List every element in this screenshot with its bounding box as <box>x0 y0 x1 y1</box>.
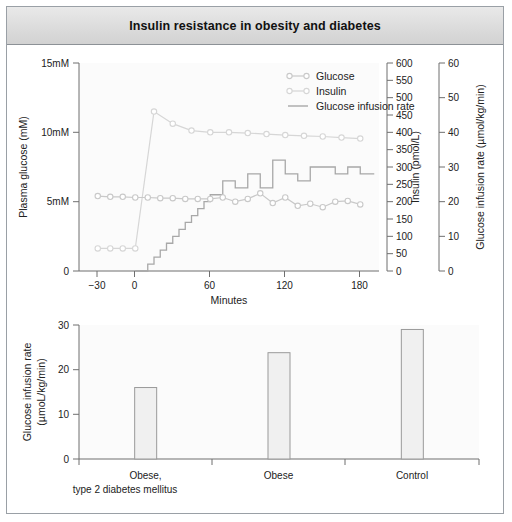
data-point <box>220 195 225 200</box>
timecourse-svg: 0 5mM 10mM 15mM Plasma glucose (mM) −30 … <box>7 45 505 313</box>
bar-y-axis-label-line2: (µmoL/kg/min) <box>35 358 47 425</box>
x-tick-label: 60 <box>204 280 216 291</box>
data-point <box>233 199 238 204</box>
timecourse-chart: 0 5mM 10mM 15mM Plasma glucose (mM) −30 … <box>7 45 505 313</box>
legend-circle-icon <box>287 73 292 78</box>
y-axis-right-2-label: Glucose infusion rate (µmol/kg/min) <box>474 84 486 249</box>
bar-y-tick-label: 10 <box>58 409 70 420</box>
bar-category-ticks <box>79 459 479 465</box>
page-title: Insulin resistance in obesity and diabet… <box>129 19 381 33</box>
bar-category-label: Obese, <box>129 470 161 481</box>
data-point <box>158 196 163 201</box>
data-point <box>145 195 150 200</box>
data-point <box>108 194 113 199</box>
bar-y-tick-label: 20 <box>58 364 70 375</box>
tick-label: 50 <box>448 92 460 103</box>
x-tick-label: 120 <box>276 280 293 291</box>
legend-circle-icon <box>304 73 309 78</box>
data-point <box>195 196 200 201</box>
right-axis-2-ticks: 0102030405060 <box>439 58 460 277</box>
data-point <box>226 130 231 135</box>
data-point <box>345 198 350 203</box>
data-point <box>308 201 313 206</box>
data-point <box>120 194 125 199</box>
data-point <box>183 196 188 201</box>
tick-label: 30 <box>448 162 460 173</box>
group-comparison-chart: 0 10 20 30 Glucose infusion rate (µmoL/k… <box>7 307 505 513</box>
legend-label: Glucose <box>316 70 355 82</box>
bar-category-labels: Obese, type 2 diabetes mellitus Obese Co… <box>73 470 428 495</box>
data-point <box>245 130 250 135</box>
data-point <box>108 246 113 251</box>
legend-circle-icon <box>287 88 292 93</box>
tick-label: 100 <box>396 231 413 242</box>
y-axis-left-label: Plasma glucose (mM) <box>17 116 29 218</box>
tick-label: 40 <box>448 127 460 138</box>
bar-category-label-line2: type 2 diabetes mellitus <box>73 484 178 495</box>
tick-label: 0 <box>396 266 402 277</box>
bar-y-tick-label: 0 <box>63 454 69 465</box>
tick-label: 150 <box>396 214 413 225</box>
bar <box>268 353 290 459</box>
tick-label: 20 <box>448 196 460 207</box>
data-point <box>358 202 363 207</box>
data-point <box>151 109 156 114</box>
tick-label: 60 <box>448 58 460 69</box>
bar <box>135 388 157 459</box>
data-point <box>95 193 100 198</box>
bar-y-axis-ticks: 0 10 20 30 <box>58 320 79 465</box>
bar-category-label: Obese <box>264 470 294 481</box>
x-axis-label: Minutes <box>211 294 248 306</box>
data-point <box>170 196 175 201</box>
tick-label: 600 <box>396 58 413 69</box>
data-point <box>295 203 300 208</box>
data-point <box>258 191 263 196</box>
figure-title-bar: Insulin resistance in obesity and diabet… <box>7 7 503 45</box>
left-tick-label: 10mM <box>41 127 69 138</box>
data-point <box>339 135 344 140</box>
data-point <box>264 131 269 136</box>
data-point <box>283 195 288 200</box>
y-axis-right-1-label: Insulin (pmol/L) <box>409 131 421 203</box>
data-point <box>133 195 138 200</box>
data-point <box>358 136 363 141</box>
bars-svg: 0 10 20 30 Glucose infusion rate (µmoL/k… <box>7 307 505 513</box>
left-tick-label: 0 <box>63 266 69 277</box>
x-tick-label: 180 <box>351 280 368 291</box>
legend-label: Insulin <box>316 85 347 97</box>
legend-label: Glucose infusion rate <box>316 100 415 112</box>
data-point <box>208 196 213 201</box>
data-point <box>333 199 338 204</box>
bar <box>401 329 423 459</box>
tick-label: 550 <box>396 75 413 86</box>
data-point <box>120 246 125 251</box>
x-tick-label: 0 <box>132 280 138 291</box>
bar-y-axis-label-line1: Glucose infusion rate <box>21 343 33 442</box>
tick-label: 50 <box>396 248 408 259</box>
tick-label: 10 <box>448 231 460 242</box>
tick-label: 0 <box>448 266 454 277</box>
bar-y-tick-label: 30 <box>58 320 70 331</box>
data-point <box>320 205 325 210</box>
data-point <box>95 246 100 251</box>
data-point <box>170 121 175 126</box>
data-point <box>283 132 288 137</box>
x-axis-ticks: −30 0 60 120 180 <box>89 271 369 291</box>
x-tick-label: −30 <box>89 280 106 291</box>
left-axis-ticks: 0 5mM 10mM 15mM <box>41 58 79 277</box>
data-point <box>270 200 275 205</box>
data-point <box>320 134 325 139</box>
data-point <box>245 196 250 201</box>
data-point <box>189 128 194 133</box>
data-point <box>208 130 213 135</box>
figure-panel: Insulin resistance in obesity and diabet… <box>6 6 504 514</box>
data-point <box>133 246 138 251</box>
left-tick-label: 5mM <box>47 196 69 207</box>
legend-circle-icon <box>304 88 309 93</box>
left-tick-label: 15mM <box>41 58 69 69</box>
bar-category-label: Control <box>396 470 428 481</box>
data-point <box>301 133 306 138</box>
